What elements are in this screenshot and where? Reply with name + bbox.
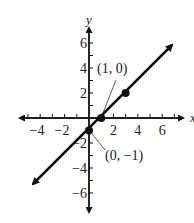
x-tick-label: −4 [30,123,45,138]
point-1-0 [97,114,105,122]
y-tick-label: −4 [72,161,87,176]
y-tick-label: 6 [80,36,87,51]
annotation-1-0: (1, 0) [97,61,128,77]
y-tick-label: 4 [80,61,87,76]
y-tick-label: 2 [80,86,87,101]
y-axis-label: y [84,12,92,27]
x-tick-label: 2 [110,123,117,138]
point-3-2 [122,89,130,97]
x-tick-label: −2 [55,123,70,138]
x-tick-label: 4 [134,123,141,138]
coordinate-plane: −4 −2 2 4 6 −6 −4 −2 2 4 6 y x (1, 0) (0… [0,0,194,223]
x-tick-label: 6 [159,123,166,138]
leader-line-1-0 [101,80,116,118]
annotation-0-neg1: (0, −1) [105,148,144,164]
point-0-neg1 [85,127,93,135]
y-tick-label: −6 [72,186,87,201]
x-axis-label: x [189,110,194,125]
